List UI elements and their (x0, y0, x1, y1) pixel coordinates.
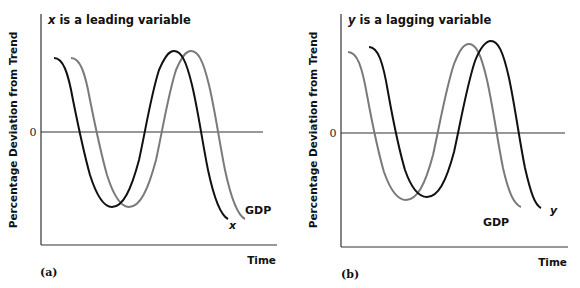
panel-a-y-axis-label: Percentage Deviation from Trend (7, 32, 19, 228)
panel-b-x-axis-label: Time (538, 256, 567, 268)
business-cycle-figure: x is a leading variable Percentage Devia… (0, 0, 580, 288)
panel-b-title: y is a lagging variable (348, 13, 491, 27)
panel-a-gdp-label: GDP (245, 204, 271, 217)
panel-a-tag: (a) (40, 266, 58, 279)
panel-b-gdp-label: GDP (483, 216, 509, 229)
panel-a-zero-label: 0 (30, 126, 37, 139)
panel-b-y-label: y (550, 204, 558, 217)
panel-a-title: x is a leading variable (47, 13, 191, 27)
panel-b: y is a lagging variable Percentage Devia… (307, 13, 568, 281)
panel-a: x is a leading variable Percentage Devia… (7, 13, 277, 279)
panel-b-gdp-curve (348, 44, 521, 207)
panel-a-x-axis-label: Time (247, 254, 276, 266)
panel-b-y-axis-label: Percentage Deviation from Trend (307, 32, 319, 228)
panel-b-tag: (b) (341, 268, 359, 281)
panel-b-y-curve (369, 41, 541, 208)
panel-b-zero-label: 0 (330, 127, 337, 140)
panel-a-x-label: x (228, 219, 237, 232)
panel-a-x-curve (54, 51, 228, 219)
